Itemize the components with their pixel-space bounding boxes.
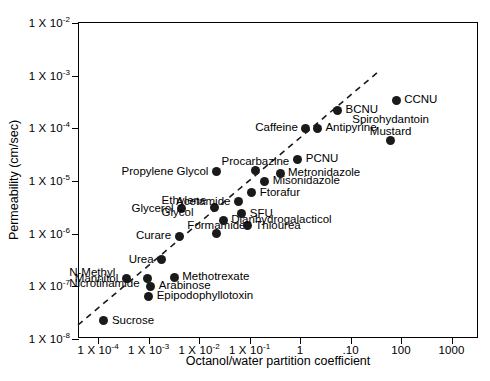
data-point-label: Ftorafur — [260, 187, 300, 199]
x-tick-label: 1 — [297, 344, 304, 356]
data-point — [301, 124, 310, 133]
x-tick-label: 100 — [391, 344, 411, 356]
data-point-label: Acetamide — [176, 196, 230, 208]
plot-area: 1 X 10-21 X 10-31 X 10-41 X 10-51 X 10-6… — [78, 22, 478, 338]
x-tick — [452, 337, 453, 344]
y-tick — [72, 339, 79, 340]
y-tick-label: 1 X 10-4 — [29, 122, 70, 134]
y-tick — [72, 181, 79, 182]
x-tick — [401, 337, 402, 344]
data-point — [170, 273, 179, 282]
data-point — [247, 188, 256, 197]
data-point — [293, 155, 302, 164]
data-point-label: Dianhydrogalacticol — [231, 214, 331, 226]
y-tick — [72, 76, 79, 77]
y-tick-label: 1 X 10-5 — [29, 175, 70, 187]
data-point-label: Propylene Glycol — [122, 166, 209, 178]
data-point-label: Spirohydantoin Mustard — [352, 114, 429, 138]
data-point-label: SFU — [250, 208, 273, 220]
x-tick — [351, 337, 352, 344]
data-point — [313, 124, 322, 133]
y-tick — [72, 234, 79, 235]
x-tick — [300, 337, 301, 344]
x-tick-label: 1 X 10-3 — [128, 344, 169, 356]
data-point-label: Sucrose — [112, 315, 154, 327]
y-tick-label: 1 X 10-7 — [29, 280, 70, 292]
data-point — [175, 232, 184, 241]
data-point-label: CCNU — [404, 94, 437, 106]
data-point-label: Caffeine — [255, 122, 298, 134]
data-point — [146, 282, 155, 291]
data-point-label: Methotrexate — [182, 271, 249, 283]
x-tick — [250, 337, 251, 344]
x-tick — [199, 337, 200, 344]
data-point — [212, 167, 221, 176]
data-point-label: Procarbazine — [222, 156, 290, 168]
data-point — [219, 216, 228, 225]
data-point-label: PCNU — [306, 153, 339, 165]
data-point — [234, 197, 243, 206]
x-tick — [149, 337, 150, 344]
x-tick-label: 1 X 10-1 — [229, 344, 270, 356]
data-point — [260, 177, 269, 186]
data-point-label: Urea — [129, 254, 154, 266]
data-point-label: Curare — [136, 230, 171, 242]
x-tick — [98, 337, 99, 344]
y-tick-label: 1 X 10-6 — [29, 228, 70, 240]
data-point — [99, 316, 108, 325]
data-point — [392, 96, 401, 105]
data-point — [333, 106, 342, 115]
data-point-label: N-Methyl Nicrotinamide — [69, 267, 139, 291]
x-tick-label: 1 X 10-4 — [78, 344, 119, 356]
permeability-scatter-figure: Permeability (cm/sec) Octanol/water part… — [0, 0, 490, 381]
x-tick-label: .10 — [342, 344, 358, 356]
data-point — [276, 169, 285, 178]
y-tick-label: 1 X 10-8 — [29, 333, 70, 345]
data-point — [144, 292, 153, 301]
x-tick-label: 1000 — [439, 344, 465, 356]
y-axis-title: Permeability (cm/sec) — [7, 120, 21, 240]
x-axis-title: Octanol/water partition coefficient — [186, 354, 371, 368]
data-point — [157, 255, 166, 264]
y-tick — [72, 128, 79, 129]
x-tick-label: 1 X 10-2 — [179, 344, 220, 356]
y-tick-label: 1 X 10-2 — [29, 17, 70, 29]
data-point-label: Metronidazole — [288, 167, 360, 179]
y-tick-label: 1 X 10-3 — [29, 70, 70, 82]
y-tick — [72, 23, 79, 24]
